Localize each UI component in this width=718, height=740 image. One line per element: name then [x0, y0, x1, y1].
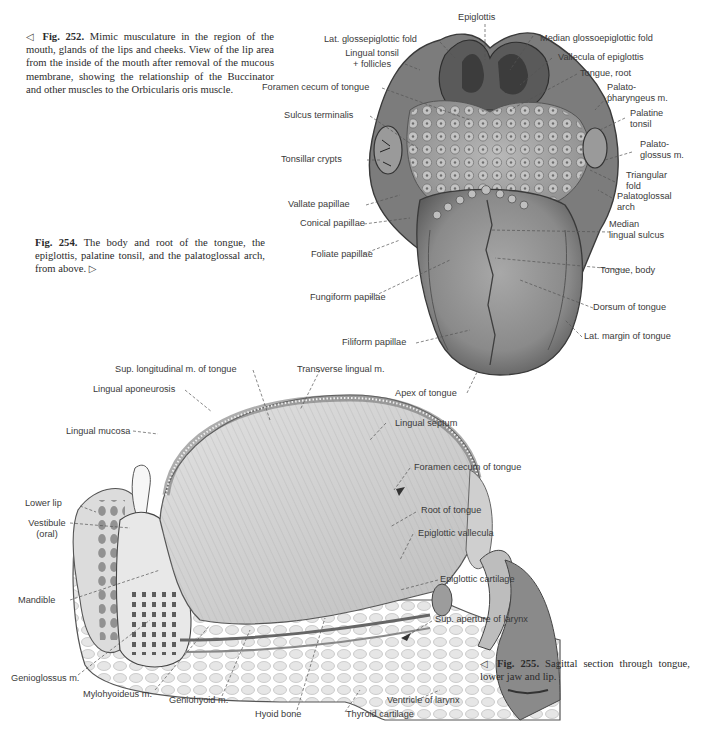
- label-line: Palatoglossal: [617, 191, 672, 202]
- caption-fig-254: Fig. 254. The body and root of the tongu…: [35, 236, 265, 276]
- label-sup-longitudinal-m: Sup. longitudinal m. of tongue: [115, 364, 237, 375]
- pointer-right-icon: ▷: [89, 263, 97, 274]
- label-genioglossus-m: Genioglossus m.: [11, 673, 79, 684]
- label-palatoglossal-arch: Palatoglossal arch: [617, 191, 672, 213]
- label-line: Median: [609, 219, 664, 230]
- label-thyroid-cartilage: Thyroid cartilage: [346, 709, 414, 720]
- label-sulcus-terminalis: Sulcus terminalis: [284, 110, 353, 121]
- label-fungiform-papillae: Fungiform papillae: [310, 292, 386, 303]
- label-line: glossus m.: [640, 150, 684, 161]
- label-triangular-fold: Triangular fold: [626, 170, 667, 192]
- label-vestibule: Vestibule (oral): [22, 518, 72, 540]
- label-lat-margin-of-tongue: Lat. margin of tongue: [584, 331, 671, 342]
- label-line: Palatine: [630, 108, 663, 119]
- label-filiform-papillae: Filiform papillae: [342, 337, 406, 348]
- textbook-page: ◁ Fig. 252. Mimic musculature in the reg…: [0, 0, 718, 740]
- caption-fig-252: ◁ Fig. 252. Mimic musculature in the reg…: [26, 30, 274, 96]
- label-line: arch: [617, 202, 672, 213]
- fig-number: Fig. 254.: [35, 237, 77, 248]
- label-foramen-cecum-section: Foramen cecum of tongue: [414, 462, 521, 473]
- label-dorsum-of-tongue: Dorsum of tongue: [593, 302, 666, 313]
- label-foramen-cecum-top: Foramen cecum of tongue: [262, 82, 369, 93]
- label-line: Palato-: [607, 82, 668, 93]
- label-line: tonsil: [630, 119, 663, 130]
- label-line: (oral): [22, 529, 72, 540]
- pointer-left-icon: ◁: [480, 658, 491, 669]
- label-median-glossoepiglottic-fold: Median glossoepiglottic fold: [540, 33, 653, 44]
- label-lingual-mucosa: Lingual mucosa: [66, 426, 130, 437]
- label-lingual-septum: Lingual septum: [395, 418, 457, 429]
- fig-number: Fig. 252.: [42, 31, 84, 42]
- label-lower-lip: Lower lip: [25, 498, 62, 509]
- label-epiglottic-cartilage: Epiglottic cartilage: [440, 574, 515, 585]
- label-mylohyoideus-m: Mylohyoideus m.: [83, 689, 152, 700]
- label-hyoid-bone: Hyoid bone: [255, 709, 301, 720]
- label-palatine-tonsil: Palatine tonsil: [630, 108, 663, 130]
- label-mandible: Mandible: [18, 595, 55, 606]
- label-ventricle-of-larynx: Ventricle of larynx: [387, 695, 460, 706]
- label-line: Vestibule: [22, 518, 72, 529]
- label-epiglottis: Epiglottis: [458, 12, 495, 23]
- label-vallate-papillae: Vallate papillae: [288, 199, 350, 210]
- label-foliate-papillae: Foliate papillae: [311, 249, 373, 260]
- tongue-top-view: [369, 33, 618, 375]
- caption-fig-255: ◁ Fig. 255. Sagittal section through ton…: [480, 657, 690, 683]
- label-line: Triangular: [626, 170, 667, 181]
- label-lingual-tonsil: Lingual tonsil + follicles: [340, 48, 404, 70]
- label-tongue-body: Tongue, body: [600, 265, 655, 276]
- label-sup-aperture-of-larynx: Sup. aperture of larynx: [435, 614, 528, 625]
- pointer-left-icon: ◁: [26, 31, 37, 42]
- label-conical-papillae: Conical papillae: [300, 218, 365, 229]
- label-geniohyoid-m: Geniohyoid m.: [169, 695, 228, 706]
- label-tonsillar-crypts: Tonsillar crypts: [281, 154, 342, 165]
- label-lat-glossepiglottic-fold: Lat. glossepiglottic fold: [324, 34, 417, 45]
- label-root-of-tongue: Root of tongue: [421, 505, 481, 516]
- label-line: pharyngeus m.: [607, 93, 668, 104]
- label-apex-of-tongue: Apex of tongue: [395, 388, 457, 399]
- label-epiglottic-vallecula: Epiglottic vallecula: [418, 528, 494, 539]
- label-palatopharyngeus: Palato- pharyngeus m.: [607, 82, 668, 104]
- label-line: Lingual tonsil: [340, 48, 404, 59]
- label-line: lingual sulcus: [609, 230, 664, 241]
- label-vallecula-of-epiglottis: Vallecula of epiglottis: [558, 52, 644, 63]
- label-line: + follicles: [340, 59, 404, 70]
- label-tongue-root: Tongue, root: [580, 68, 631, 79]
- fig-number: Fig. 255.: [497, 658, 539, 669]
- label-median-lingual-sulcus: Median lingual sulcus: [609, 219, 664, 241]
- label-palatoglossus: Palato- glossus m.: [640, 139, 684, 161]
- label-lingual-aponeurosis: Lingual aponeurosis: [93, 384, 175, 395]
- label-transverse-lingual-m: Transverse lingual m.: [297, 364, 384, 375]
- label-line: Palato-: [640, 139, 684, 150]
